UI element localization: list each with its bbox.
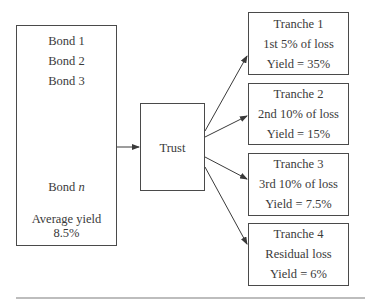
- tranche-name: Tranche 3: [249, 157, 348, 171]
- average-yield-value: 8.5%: [17, 226, 116, 240]
- tranche-yield: Yield = 15%: [249, 127, 348, 141]
- tranche-yield: Yield = 7.5%: [249, 197, 348, 211]
- trust-to-tranche-3-arrow: [205, 157, 247, 179]
- tranche-loss: 2nd 10% of loss: [249, 107, 348, 121]
- bond-label: Bond 2: [17, 54, 116, 68]
- bond-n-label: Bond n: [17, 180, 116, 194]
- tranche-yield: Yield = 35%: [249, 57, 348, 71]
- tranche-3-box: Tranche 3 3rd 10% of loss Yield = 7.5%: [248, 153, 349, 216]
- tranche-loss: Residual loss: [249, 247, 348, 261]
- average-yield-label: Average yield: [17, 212, 116, 226]
- trust-to-tranche-1-arrow: [205, 56, 247, 131]
- tranche-4-box: Tranche 4 Residual loss Yield = 6%: [248, 223, 349, 286]
- tranche-2-box: Tranche 2 2nd 10% of loss Yield = 15%: [248, 83, 349, 145]
- tranche-name: Tranche 2: [249, 87, 348, 101]
- trust-to-tranche-4-arrow: [205, 167, 247, 244]
- trust-label: Trust: [141, 141, 204, 155]
- tranche-name: Tranche 4: [249, 227, 348, 241]
- bond-label: Bond 3: [17, 74, 116, 88]
- bond-label: Bond 1: [17, 34, 116, 48]
- tranche-yield: Yield = 6%: [249, 267, 348, 281]
- bond-pool-box: Bond 1 Bond 2 Bond 3 Bond n Average yiel…: [16, 25, 117, 246]
- tranche-1-box: Tranche 1 1st 5% of loss Yield = 35%: [248, 12, 349, 75]
- tranche-name: Tranche 1: [249, 17, 348, 31]
- tranche-loss: 1st 5% of loss: [249, 37, 348, 51]
- bottom-divider: [16, 297, 365, 299]
- trust-box: Trust: [140, 103, 205, 191]
- tranche-loss: 3rd 10% of loss: [249, 177, 348, 191]
